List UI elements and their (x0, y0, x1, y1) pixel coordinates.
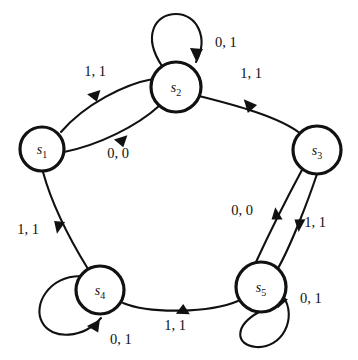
state-machine-diagram: 1, 1 0, 0 1, 1 0, 0 1, 1 (0, 0, 358, 360)
edge-label-s1-s2-lower: 0, 0 (107, 145, 129, 161)
arrow-head-icon (176, 304, 190, 314)
edge-s5-to-s3: 1, 1 (277, 174, 326, 270)
arrow-head-icon (52, 220, 65, 235)
state-node-s3[interactable]: s3 (293, 126, 341, 174)
edge-label-s2-s3: 1, 1 (240, 65, 262, 81)
edge-label-s2-self: 0, 1 (215, 34, 237, 50)
state-diagram-canvas: 1, 1 0, 0 1, 1 0, 0 1, 1 (0, 0, 358, 360)
edge-label-s5-s4: 1, 1 (164, 317, 186, 333)
edge-label-s3-s5: 0, 0 (231, 202, 253, 218)
self-loop-path (152, 14, 201, 66)
state-node-s4[interactable]: s4 (76, 266, 124, 314)
state-node-s1[interactable]: s1 (20, 127, 64, 171)
edge-s3-to-s5: 0, 0 (231, 168, 303, 262)
edge-label-s4-s1: 1, 1 (17, 221, 39, 237)
edge-label-s5-self: 0, 1 (300, 290, 322, 306)
edge-label-s4-self: 0, 1 (110, 331, 132, 347)
edge-path (43, 172, 88, 269)
edge-path (199, 96, 301, 134)
edge-label-s5-s3: 1, 1 (304, 214, 326, 230)
edge-s5-to-s4: 1, 1 (123, 301, 238, 333)
edge-s2-to-s3: 1, 1 (199, 65, 301, 134)
arrow-head-icon (190, 48, 203, 61)
self-loop-s2: 0, 1 (152, 14, 237, 66)
edge-s4-to-s1: 1, 1 (17, 172, 88, 269)
edge-path (61, 79, 153, 132)
state-node-s5[interactable]: s5 (236, 262, 286, 312)
state-node-s2[interactable]: s2 (151, 62, 201, 112)
edge-label-s1-s2-upper: 1, 1 (84, 63, 106, 79)
